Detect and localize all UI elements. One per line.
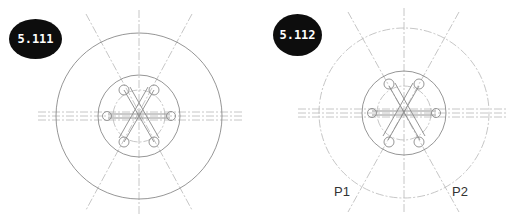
figure-number: 5.111 xyxy=(17,32,53,46)
figure-badge: 5.112 xyxy=(273,14,322,56)
point-label-p2: P2 xyxy=(452,184,468,199)
figure-badge: 5.111 xyxy=(9,19,62,59)
figure-5-111: 5.111 xyxy=(0,0,256,222)
figure-5-112: 5.112 P1 P2 xyxy=(256,0,513,222)
figure-number: 5.112 xyxy=(279,28,315,42)
point-label-p1: P1 xyxy=(334,184,350,199)
